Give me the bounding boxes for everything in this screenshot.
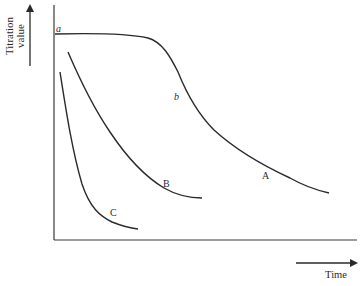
curve-a-label: A	[262, 170, 270, 181]
titration-chart: Titration value Time a b A B C	[0, 0, 364, 286]
point-b-label: b	[174, 91, 179, 102]
curve-b-label: B	[163, 178, 170, 189]
point-a-label: a	[56, 23, 61, 34]
curve-b	[68, 52, 202, 198]
curve-c-label: C	[110, 207, 117, 218]
y-axis-label-line2: value	[14, 24, 26, 48]
x-axis-label: Time	[325, 269, 347, 280]
y-axis-label: Titration value	[3, 16, 26, 55]
curve-c	[60, 72, 138, 229]
curve-a	[55, 34, 329, 193]
